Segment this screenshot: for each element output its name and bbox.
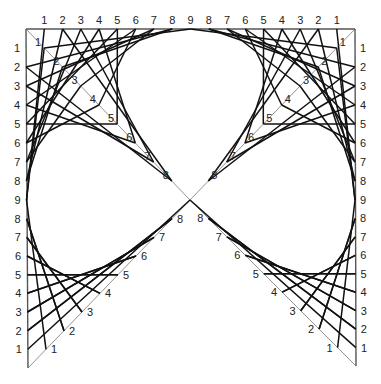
diagonal-label: 3	[87, 306, 93, 318]
left-axis-label: 7	[14, 156, 20, 168]
top-axis-label: 9	[187, 14, 193, 26]
top-axis-label: 7	[224, 14, 230, 26]
diagonal-label: 5	[266, 112, 272, 124]
top-axis-label: 4	[279, 14, 285, 26]
diagonal-label: 7	[230, 150, 236, 162]
right-axis-label: 6	[360, 137, 366, 149]
top-axis-label: 3	[78, 14, 84, 26]
top-axis-label: 4	[96, 14, 102, 26]
left-axis-label: 3	[15, 306, 21, 318]
right-axis-label: 8	[360, 175, 366, 187]
left-axis-label: 6	[14, 137, 20, 149]
right-axis-label: 3	[360, 80, 366, 92]
diagonal-label: 3	[303, 74, 309, 86]
right-axis-label: 2	[360, 61, 366, 73]
left-axis-label: 5	[15, 269, 21, 281]
diagonal-label: 8	[211, 169, 217, 181]
diagonal-label: 8	[163, 169, 169, 181]
string-art-diagram: 1234567898765432112345678987654321123456…	[0, 0, 381, 384]
diagonal-label: 1	[51, 343, 57, 355]
diagonal-label: 3	[72, 74, 78, 86]
left-axis-label: 2	[16, 325, 22, 337]
diagonal-label: 4	[105, 287, 111, 299]
diagonal-label: 4	[90, 93, 96, 105]
right-axis-label: 4	[360, 99, 366, 111]
diagonal-label: 7	[144, 150, 150, 162]
left-axis-label: 6	[15, 250, 21, 262]
diagonal-label: 5	[123, 269, 129, 281]
diagonal-label: 7	[216, 231, 222, 243]
right-axis-label: 9	[360, 194, 366, 206]
diagonal-label: 7	[159, 231, 165, 243]
left-axis-label: 3	[14, 80, 20, 92]
top-axis-label: 8	[206, 14, 212, 26]
left-axis-label: 4	[14, 99, 20, 111]
left-axis-label: 5	[14, 118, 20, 130]
left-axis-label: 1	[14, 42, 20, 54]
diagonal-label: 2	[69, 325, 75, 337]
diagonal-label: 3	[290, 305, 296, 317]
top-axis-label: 1	[334, 14, 340, 26]
left-axis-label: 7	[15, 231, 21, 243]
left-axis-label: 2	[14, 61, 20, 73]
top-axis-label: 3	[297, 14, 303, 26]
diagonal-label: 1	[35, 36, 41, 48]
right-axis-label: 3	[361, 305, 367, 317]
right-axis-label: 1	[360, 42, 366, 54]
top-axis-label: 5	[261, 14, 267, 26]
diagonal-label: 6	[141, 250, 147, 262]
diagonal-label: 2	[321, 55, 327, 67]
left-axis-label: 8	[14, 175, 20, 187]
diagram-svg: 1234567898765432112345678987654321123456…	[0, 0, 381, 384]
top-axis-label: 1	[41, 14, 47, 26]
diagonal-label: 5	[253, 268, 259, 280]
diagonal-label: 8	[197, 212, 203, 224]
right-axis-label: 1	[361, 342, 367, 354]
diagonal-label: 4	[285, 93, 291, 105]
right-axis-label: 2	[361, 323, 367, 335]
top-axis-label: 8	[169, 14, 175, 26]
right-axis-label: 5	[360, 268, 366, 280]
right-axis-label: 7	[360, 231, 366, 243]
diagonal-label: 1	[326, 342, 332, 354]
right-axis-label: 5	[360, 118, 366, 130]
left-axis-label: 4	[15, 287, 21, 299]
top-axis-label: 6	[133, 14, 139, 26]
left-axis-label: 8	[15, 213, 21, 225]
right-axis-label: 7	[360, 156, 366, 168]
right-axis-label: 4	[361, 286, 367, 298]
top-axis-label: 2	[60, 14, 66, 26]
top-axis-label: 6	[242, 14, 248, 26]
diagonal-label: 5	[108, 112, 114, 124]
top-axis-label: 7	[151, 14, 157, 26]
diagonal-label: 1	[340, 36, 346, 48]
right-axis-label: 6	[360, 249, 366, 261]
diagonal-label: 2	[308, 323, 314, 335]
diagonal-label: 4	[271, 286, 277, 298]
left-axis-label: 1	[16, 343, 22, 355]
diagonal-label: 8	[177, 213, 183, 225]
top-axis-label: 2	[315, 14, 321, 26]
right-axis-label: 8	[360, 212, 366, 224]
diagonal-label: 6	[126, 131, 132, 143]
string-line	[227, 29, 355, 86]
top-axis-label: 5	[114, 14, 120, 26]
left-axis-label: 9	[14, 194, 20, 206]
string-line	[26, 29, 154, 86]
diagonal-label: 6	[234, 249, 240, 261]
diagonal-label: 2	[53, 55, 59, 67]
diagonal-label: 6	[248, 131, 254, 143]
